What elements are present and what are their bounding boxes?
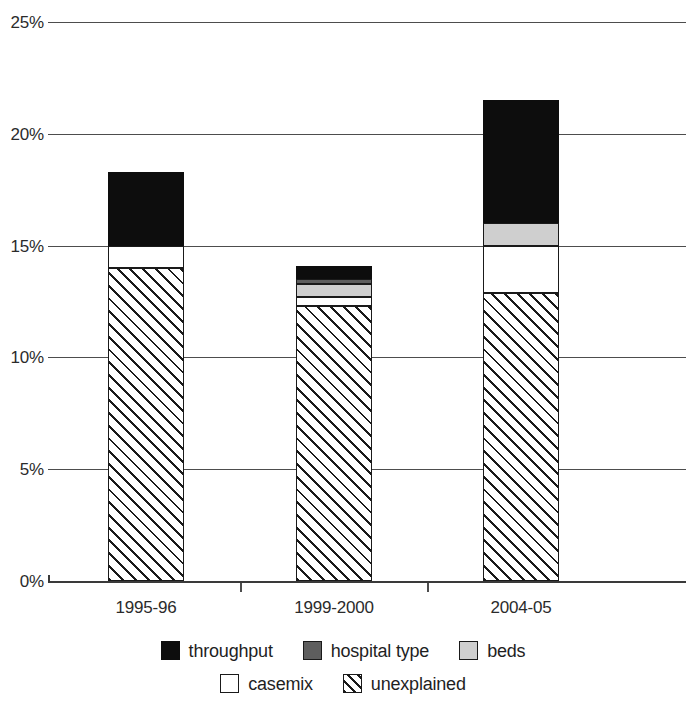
y-tick-label-5pct: 5% bbox=[2, 461, 44, 478]
y-axis: 0%5%10%15%20%25% bbox=[0, 0, 44, 581]
bar-segment-hospital-type-1999-2000 bbox=[296, 279, 372, 283]
bar-segment-unexplained-1999-2000 bbox=[296, 306, 372, 581]
legend-row-1: throughputhospital typebeds bbox=[0, 634, 686, 667]
bar-1995-96 bbox=[108, 0, 184, 581]
legend-label-throughput: throughput bbox=[189, 641, 273, 661]
x-axis-baseline bbox=[48, 581, 686, 583]
legend-item-hospital-type[interactable]: hospital type bbox=[303, 641, 429, 661]
stacked-bar-chart: 0%5%10%15%20%25% 1995-961999-20002004-05… bbox=[0, 0, 686, 702]
legend-item-casemix[interactable]: casemix bbox=[220, 674, 313, 694]
legend-swatch-unexplained-icon bbox=[343, 674, 362, 693]
legend-label-hospital-type: hospital type bbox=[331, 641, 429, 661]
legend-item-beds[interactable]: beds bbox=[459, 641, 525, 661]
bar-segment-casemix-1999-2000 bbox=[296, 297, 372, 306]
bar-segment-beds-2004-05 bbox=[483, 223, 559, 245]
legend-label-unexplained: unexplained bbox=[371, 674, 466, 694]
bar-segment-throughput-2004-05 bbox=[483, 100, 559, 223]
bar-1999-2000 bbox=[296, 0, 372, 581]
y-tick-label-0pct: 0% bbox=[2, 573, 44, 590]
bar-segment-throughput-1995-96 bbox=[108, 172, 184, 246]
x-tick-label-2004-05: 2004-05 bbox=[451, 598, 591, 618]
x-tick-label-1995-96: 1995-96 bbox=[76, 598, 216, 618]
bar-segment-beds-1999-2000 bbox=[296, 284, 372, 297]
legend-label-beds: beds bbox=[487, 641, 525, 661]
legend-swatch-beds-icon bbox=[459, 641, 478, 660]
bar-segment-unexplained-2004-05 bbox=[483, 293, 559, 581]
y-axis-corner-tick bbox=[48, 575, 50, 583]
bar-segment-unexplained-1995-96 bbox=[108, 268, 184, 581]
y-tick-label-25pct: 25% bbox=[2, 14, 44, 31]
bar-segment-casemix-1995-96 bbox=[108, 246, 184, 268]
y-tick-label-15pct: 15% bbox=[2, 238, 44, 255]
legend-label-casemix: casemix bbox=[248, 674, 313, 694]
x-tick-label-1999-2000: 1999-2000 bbox=[264, 598, 404, 618]
bar-segment-casemix-2004-05 bbox=[483, 246, 559, 293]
bar-segment-throughput-1999-2000 bbox=[296, 266, 372, 279]
y-tick-label-20pct: 20% bbox=[2, 126, 44, 143]
y-tick-label-10pct: 10% bbox=[2, 349, 44, 366]
x-axis-tick-1 bbox=[240, 583, 242, 592]
legend-row-2: casemixunexplained bbox=[0, 667, 686, 700]
legend-swatch-casemix-icon bbox=[220, 674, 239, 693]
chart-legend: throughputhospital typebedscasemixunexpl… bbox=[0, 634, 686, 700]
legend-swatch-hospital-type-icon bbox=[303, 641, 322, 660]
legend-item-unexplained[interactable]: unexplained bbox=[343, 674, 466, 694]
bar-2004-05 bbox=[483, 0, 559, 581]
legend-item-throughput[interactable]: throughput bbox=[161, 641, 273, 661]
x-axis-tick-2 bbox=[427, 583, 429, 592]
legend-swatch-throughput-icon bbox=[161, 641, 180, 660]
